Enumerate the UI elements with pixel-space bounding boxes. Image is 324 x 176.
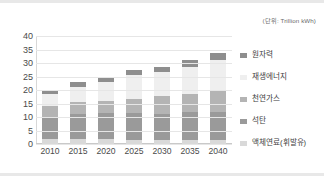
x-tick-label: 2025 [120,147,148,163]
bar-segment[interactable] [126,75,142,99]
gridline [36,104,232,105]
gridline [36,90,232,91]
y-tick-label: 0 [3,140,33,149]
legend-swatch-icon [240,97,247,102]
bottom-divider [0,173,324,176]
chart-card: (단위: Trillion kWh) 4035302520151050 2010… [0,0,324,176]
top-divider [0,0,324,3]
x-tick-label: 2030 [148,147,176,163]
bar-stack[interactable] [70,82,86,144]
gridline [36,131,232,132]
legend-item-label: 액체연료(휘발유) [252,139,306,147]
gridline [36,117,232,118]
plot-area [36,36,232,144]
legend-item[interactable]: 원자력 [240,50,273,60]
bar-stack[interactable] [154,67,170,144]
x-tick-label: 2035 [176,147,204,163]
x-tick-label: 2015 [64,147,92,163]
legend-item-label: 재생에너지 [252,73,287,81]
bar-segment[interactable] [126,99,142,113]
legend-item[interactable]: 재생에너지 [240,72,287,82]
legend-item[interactable]: 액체연료(휘발유) [240,138,306,148]
x-tick-label: 2010 [36,147,64,163]
unit-note: (단위: Trillion kWh) [263,16,316,25]
x-axis-labels: 2010201520202025203020352040 [36,147,232,163]
bar-stack[interactable] [98,77,114,144]
x-tick-label: 2040 [204,147,232,163]
y-tick-label: 10 [3,113,33,122]
gridline [36,50,232,51]
x-tick-label: 2020 [92,147,120,163]
y-tick-label: 15 [3,99,33,108]
legend-item[interactable]: 천연가스 [240,94,280,104]
bar-segment[interactable] [210,53,226,60]
legend-item-label: 천연가스 [252,95,280,103]
y-axis-labels: 4035302520151050 [0,36,33,144]
y-tick-label: 25 [3,72,33,81]
legend-item[interactable]: 석탄 [240,116,266,126]
y-tick-label: 40 [3,32,33,41]
legend-swatch-icon [240,119,247,124]
legend-item-label: 석탄 [252,117,266,125]
legend-item-label: 원자력 [252,51,273,59]
y-tick-label: 5 [3,126,33,135]
gridline [36,36,232,37]
legend-swatch-icon [240,75,247,80]
chart-legend: 원자력재생에너지천연가스석탄액체연료(휘발유) [240,50,324,146]
gridline [36,144,232,145]
legend-swatch-icon [240,53,247,58]
gridline [36,77,232,78]
bar-stack[interactable] [126,70,142,145]
legend-swatch-icon [240,141,247,146]
bar-segment[interactable] [98,82,114,101]
bar-segment[interactable] [210,90,226,112]
y-tick-label: 30 [3,59,33,68]
y-tick-label: 20 [3,86,33,95]
bar-segment[interactable] [154,96,170,114]
bar-segment[interactable] [210,60,226,91]
bar-segment[interactable] [42,117,58,139]
y-tick-label: 35 [3,45,33,54]
gridline [36,63,232,64]
bar-segment[interactable] [42,106,58,117]
